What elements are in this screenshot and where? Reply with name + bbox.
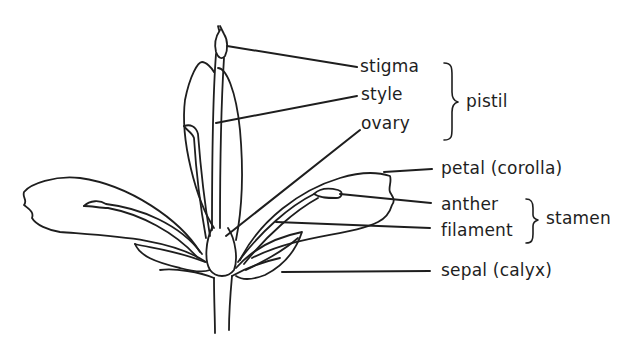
label-sepal: sepal (calyx): [441, 262, 552, 279]
stamen-brace: [526, 199, 538, 243]
left-stamen: [184, 125, 210, 238]
label-stigma: stigma: [360, 58, 419, 75]
label-petal: petal (corolla): [441, 160, 562, 177]
label-ovary: ovary: [361, 115, 410, 132]
label-pistil: pistil: [466, 93, 508, 110]
stem: [160, 258, 280, 333]
leader-sepal: [282, 271, 430, 272]
label-anther: anther: [441, 196, 498, 213]
flower-diagram: stigma style ovary pistil petal (corolla…: [0, 0, 622, 345]
leader-ovary: [226, 130, 360, 236]
left-petal: [24, 177, 206, 262]
leader-lines: [216, 46, 432, 272]
leader-anther: [340, 194, 431, 203]
label-filament: filament: [441, 222, 513, 239]
left-lower-stamen: [84, 201, 202, 258]
leader-petal: [384, 169, 432, 172]
label-style: style: [361, 86, 403, 103]
pistil-brace: [444, 63, 458, 140]
leader-filament: [276, 222, 430, 228]
pistil: [206, 26, 236, 276]
label-stamen: stamen: [546, 210, 611, 227]
leader-stigma: [227, 46, 357, 67]
